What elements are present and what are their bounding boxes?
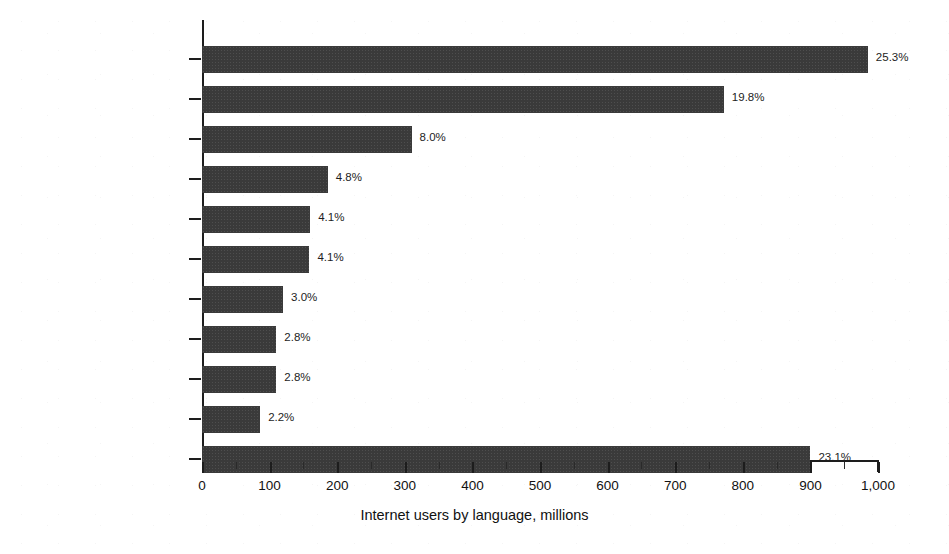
bar-value-label: 25.3%: [876, 51, 909, 63]
bar: [202, 126, 412, 153]
bar-value-label: 4.1%: [318, 211, 344, 223]
value-tick-label: 700: [664, 478, 687, 494]
value-tick-label: 100: [258, 478, 281, 494]
bar-value-label: 4.1%: [317, 251, 343, 263]
x-axis-title: Internet users by language, millions: [0, 506, 949, 524]
bar-value-label: 19.8%: [732, 91, 765, 103]
value-tick-minor: [574, 462, 575, 469]
value-tick-major: [878, 462, 880, 473]
category-tick: [189, 458, 201, 460]
value-tick-minor: [844, 462, 845, 469]
bar-value-label: 2.8%: [284, 371, 310, 383]
category-tick: [189, 98, 201, 100]
category-tick: [189, 338, 201, 340]
category-tick: [189, 298, 201, 300]
value-tick-label: 1,000: [861, 478, 895, 494]
value-tick-major: [743, 462, 745, 473]
category-tick: [189, 178, 201, 180]
bar: [202, 166, 328, 193]
bar: [202, 366, 276, 393]
value-tick-label: 800: [732, 478, 755, 494]
value-tick-label: 900: [799, 478, 822, 494]
bar-value-label: 8.0%: [420, 131, 446, 143]
value-tick-minor: [777, 462, 778, 469]
plot-area: English25.3%Chinese19.8%Spanish8.0%Arabi…: [202, 20, 878, 460]
bar-row: Russian2.8%: [202, 320, 878, 360]
category-tick: [189, 218, 201, 220]
category-tick: [189, 138, 201, 140]
bar: [202, 406, 260, 433]
category-tick: [189, 378, 201, 380]
bar: [202, 286, 283, 313]
value-tick-major: [270, 462, 272, 473]
value-tick-label: 200: [326, 478, 349, 494]
value-tick-label: 500: [529, 478, 552, 494]
value-tick-minor: [303, 462, 304, 469]
bar-row: French2.8%: [202, 360, 878, 400]
value-tick-major: [810, 462, 812, 473]
bar-value-label: 2.2%: [268, 411, 294, 423]
bar-row: Chinese19.8%: [202, 80, 878, 120]
value-tick-major: [608, 462, 610, 473]
value-tick-label: 0: [198, 478, 206, 494]
value-tick-major: [202, 462, 204, 473]
bar: [202, 46, 868, 73]
bar-row: Arabic4.8%: [202, 160, 878, 200]
bar-row: English25.3%: [202, 40, 878, 80]
value-tick-label: 400: [461, 478, 484, 494]
category-tick: [189, 418, 201, 420]
value-tick-label: 600: [596, 478, 619, 494]
value-tick-major: [472, 462, 474, 473]
value-tick-major: [540, 462, 542, 473]
value-tick-minor: [371, 462, 372, 469]
bar-row: Japanese3.0%: [202, 280, 878, 320]
value-tick-minor: [506, 462, 507, 469]
bar-row: German2.2%: [202, 400, 878, 440]
value-tick-minor: [236, 462, 237, 469]
bar-row: Spanish8.0%: [202, 120, 878, 160]
bar: [202, 86, 724, 113]
bar-value-label: 4.8%: [336, 171, 362, 183]
bar-chart: English25.3%Chinese19.8%Spanish8.0%Arabi…: [0, 0, 949, 554]
value-tick-minor: [709, 462, 710, 469]
bar-row: Portuguese4.1%: [202, 200, 878, 240]
category-tick: [189, 258, 201, 260]
category-tick: [189, 58, 201, 60]
bar-row: Indonesian/Malaysian4.1%: [202, 240, 878, 280]
value-tick-major: [675, 462, 677, 473]
bar: [202, 246, 309, 273]
bar: [202, 206, 310, 233]
bar: [202, 326, 276, 353]
bar-value-label: 2.8%: [284, 331, 310, 343]
bar-row: Rest of the languages23.1%: [202, 440, 878, 480]
bar-value-label: 3.0%: [291, 291, 317, 303]
bar-value-label: 23.1%: [818, 451, 851, 463]
value-tick-major: [337, 462, 339, 473]
value-tick-major: [405, 462, 407, 473]
value-tick-minor: [439, 462, 440, 469]
value-tick-minor: [641, 462, 642, 469]
value-tick-label: 300: [394, 478, 417, 494]
